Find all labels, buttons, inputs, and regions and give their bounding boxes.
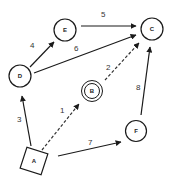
edge-label-a-d: 3 (17, 115, 22, 124)
edge-label-b-c: 2 (106, 63, 111, 72)
edge-label-a-f: 7 (88, 138, 93, 147)
edge-f-c: 8 (136, 47, 150, 115)
node-a[interactable]: A (20, 147, 48, 175)
node-e[interactable]: E (54, 19, 76, 41)
edge-a-b: 1 (42, 104, 79, 150)
edge-b-c: 2 (105, 43, 139, 80)
node-label-a: A (32, 158, 37, 164)
node-label-d: D (18, 73, 23, 79)
edge-a-d: 3 (17, 96, 31, 146)
edge-e-c: 5 (81, 10, 136, 26)
node-label-e: E (63, 27, 67, 33)
edge-label-d-c: 6 (74, 44, 79, 53)
edge-a-f: 7 (58, 138, 121, 156)
edge-d-e: 4 (30, 41, 54, 67)
edge-label-e-c: 5 (101, 10, 106, 19)
edge-label-f-c: 8 (136, 83, 141, 92)
node-label-f: F (134, 128, 138, 134)
edge-label-d-e: 4 (30, 41, 35, 50)
graph-canvas: 1 2 3 4 5 6 7 8 (0, 0, 171, 181)
node-label-b: B (90, 88, 95, 94)
node-b[interactable]: B (82, 81, 103, 102)
edge-label-a-b: 1 (60, 106, 65, 115)
node-f[interactable]: F (126, 121, 147, 142)
node-c[interactable]: C (141, 18, 163, 40)
node-d[interactable]: D (9, 65, 31, 87)
node-label-c: C (150, 26, 155, 32)
edge-d-c: 6 (34, 35, 136, 73)
